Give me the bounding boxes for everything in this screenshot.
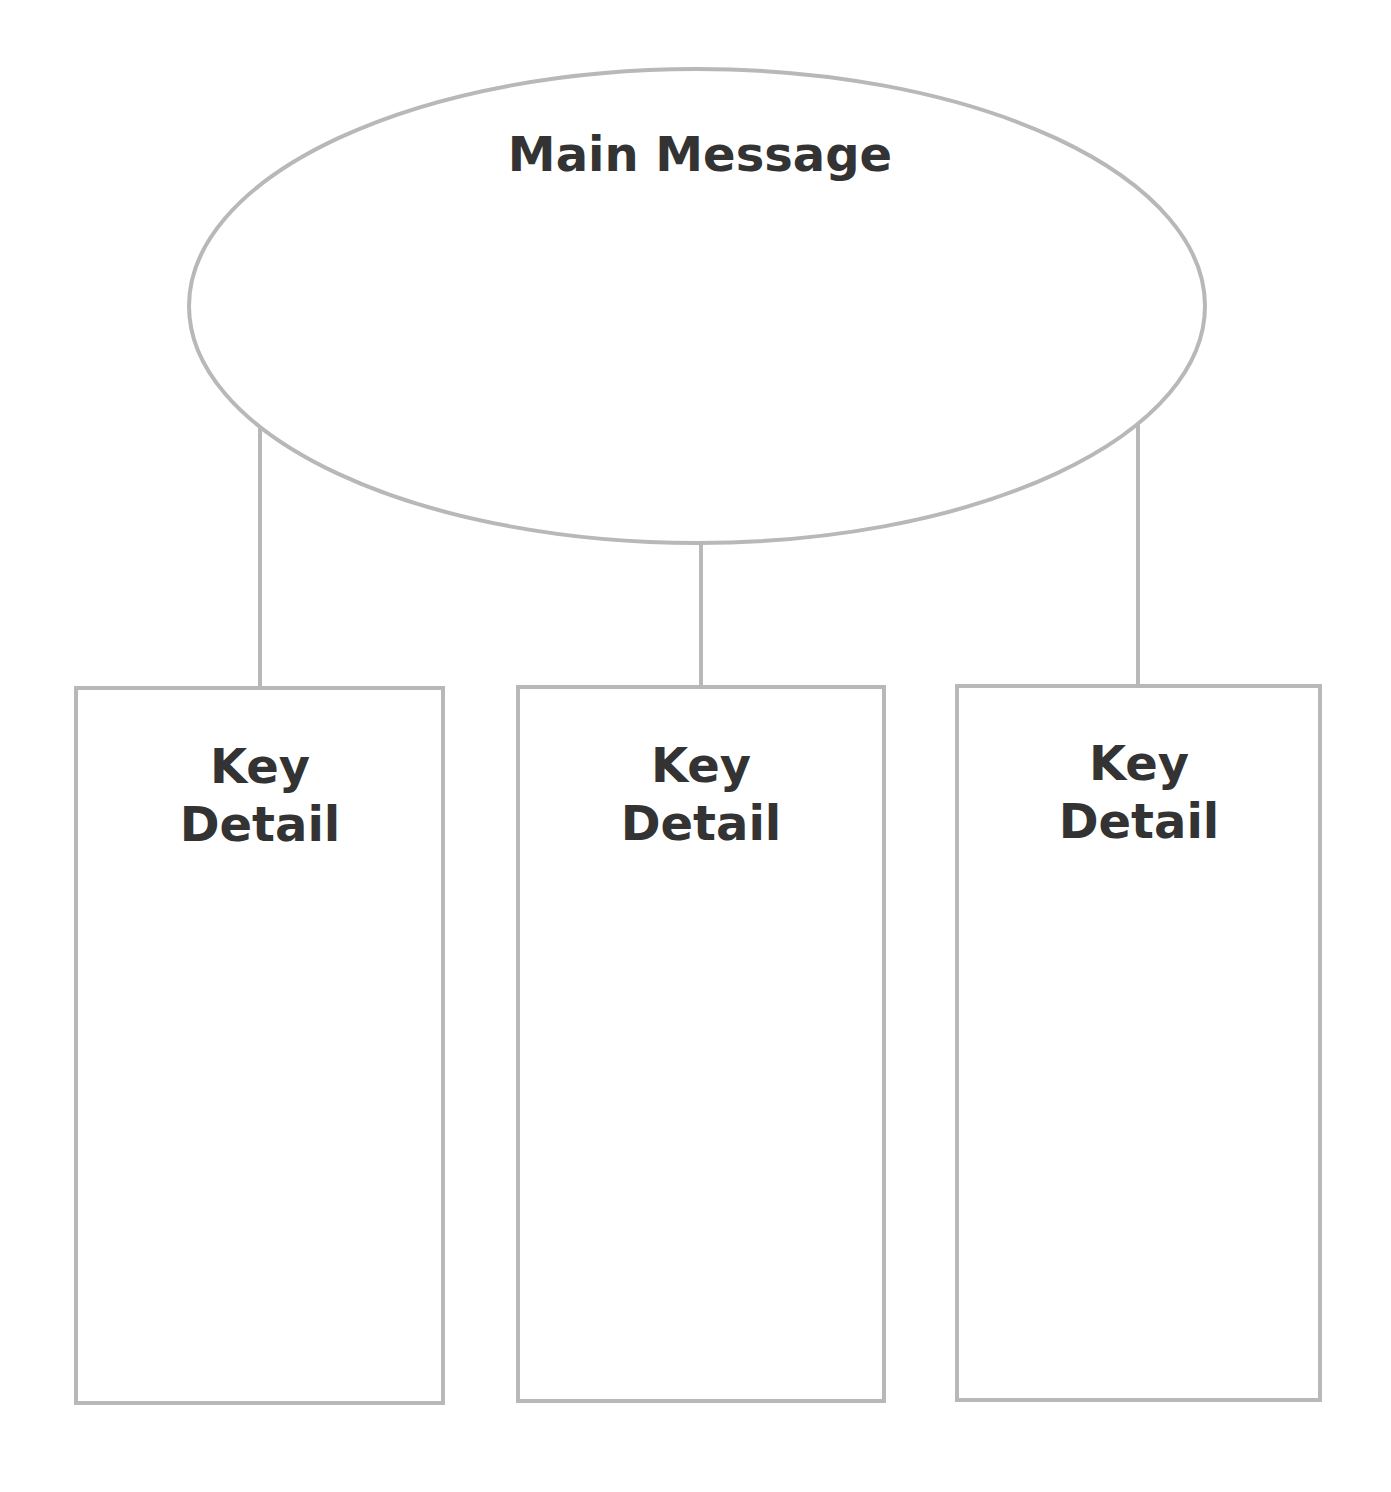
key-detail-line1: Key	[517, 736, 885, 794]
key-detail-label-2: Key Detail	[517, 736, 885, 852]
main-message-title: Main Message	[400, 126, 1000, 182]
key-detail-label-1: Key Detail	[75, 737, 445, 853]
key-detail-label-3: Key Detail	[956, 734, 1322, 850]
key-detail-line1: Key	[75, 737, 445, 795]
key-detail-line2: Detail	[956, 792, 1322, 850]
key-detail-line2: Detail	[517, 794, 885, 852]
key-detail-line1: Key	[956, 734, 1322, 792]
key-detail-line2: Detail	[75, 795, 445, 853]
